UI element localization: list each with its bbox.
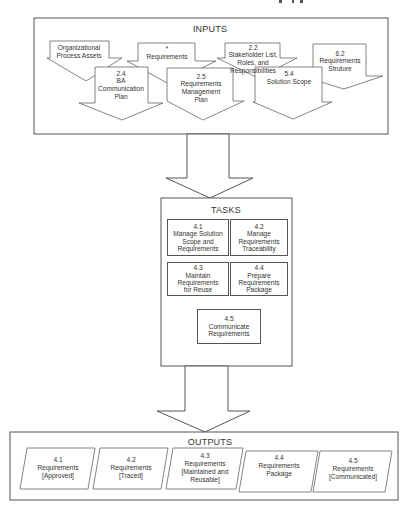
task-line: Requirements [208,330,249,337]
task-4-4[interactable]: 4.4 Prepare Requirements Package [230,262,288,296]
output-label-4-2: 4.2 Requirements [Traced] [97,451,165,485]
output-line: [Maintained and [182,468,229,476]
input-line: Process Assets [56,52,101,60]
input-line: Organizational [58,44,101,52]
input-label-ba-communication-plan: 2.4 BA Communication Plan [92,69,150,101]
output-line: [Traced] [119,472,143,480]
input-line: 2.5 [196,73,205,81]
task-line: Traceability [242,245,275,252]
input-line: 5.4 [284,70,293,78]
task-4-3[interactable]: 4.3 Maintain Requirements for Reuse [167,262,229,296]
flow-arrow-inputs-to-tasks [166,134,253,198]
task-line: 4.5 [224,315,233,322]
task-line: Requirements [238,238,279,245]
output-line: 4.3 [200,452,209,460]
output-line: 4.4 [274,454,283,462]
task-line: for Reuse [184,286,213,293]
input-line: Plan [194,96,207,104]
output-line: [Communicated] [329,473,377,481]
input-label-solution-scope: 5.4 Solution Scope [258,70,320,86]
input-label-org-process-assets: Organizational Process Assets [48,44,110,60]
header-fragment [279,0,303,3]
flow-arrow-tasks-to-outputs [157,366,250,432]
task-line: 4.1 [193,223,202,230]
input-line: Stakeholder List, [228,51,277,59]
input-line: 2.2 [248,44,257,52]
task-line: Requirements [177,279,218,286]
output-line: Requirements [37,464,78,472]
task-line: Requirements [238,279,279,286]
task-line: 4.3 [193,264,202,271]
outputs-title: OUTPUTS [175,437,245,447]
input-line: Roles, and [237,59,269,67]
output-line: Requirements [258,462,299,470]
output-label-4-1: 4.1 Requirements [Approved] [24,451,92,485]
input-line: 6.2 [335,50,344,58]
output-line: 4.1 [53,456,62,464]
task-line: Communicate [209,323,250,330]
output-label-4-4: 4.4 Requirements Package [244,453,314,479]
output-line: Reusable] [190,476,220,484]
input-line: Requirements [319,57,360,65]
input-line: Struture [328,65,351,73]
input-line: Plan [114,93,127,101]
input-line: 2.4 [116,70,125,78]
input-line: Communication [98,85,144,93]
output-line: Requirements [332,465,373,473]
task-line: Manage [247,230,271,237]
tasks-title: TASKS [196,205,256,215]
task-line: Manage Solution [173,230,223,237]
task-line: 4.4 [254,264,263,271]
output-label-4-3: 4.3 Requirements [Maintained and Reusabl… [170,451,240,485]
input-line: BA [117,77,126,85]
output-line: Requirements [184,460,225,468]
task-line: Package [246,286,272,293]
input-line: Requirements [146,53,187,61]
output-label-4-5: 4.5 Requirements [Communicated] [318,456,388,482]
task-line: Maintain [186,272,211,279]
task-line: 4.2 [254,223,263,230]
input-label-requirements-structure: 6.2 Requirements Struture [313,49,367,73]
output-line: Requirements [110,464,151,472]
output-line: 4.2 [126,456,135,464]
output-line: 4.5 [348,457,357,465]
output-line: Package [266,470,292,478]
input-line: Management [182,88,221,96]
output-line: [Approved] [42,472,74,480]
input-label-requirements: * Requirements [138,45,196,61]
task-line: Requirements [177,245,218,252]
input-label-requirements-management-plan: 2.5 Requirements Management Plan [170,72,232,104]
task-4-2[interactable]: 4.2 Manage Requirements Traceability [230,219,288,256]
task-line: Prepare [247,272,270,279]
input-line: Solution Scope [267,78,311,86]
inputs-title: INPUTS [180,24,240,34]
task-4-1[interactable]: 4.1 Manage Solution Scope and Requiremen… [167,219,229,256]
task-line: Scope and [182,238,214,245]
task-4-5[interactable]: 4.5 Communicate Requirements [197,309,261,344]
input-line: * [166,45,169,53]
input-line: Requirements [180,80,221,88]
